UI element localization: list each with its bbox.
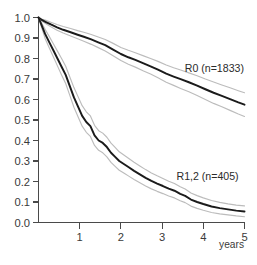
y-tick-label: 0.5 xyxy=(14,114,30,126)
confidence-lower-line xyxy=(39,18,245,217)
y-tick-label: 1.0 xyxy=(14,12,30,24)
y-tick-label: 0.3 xyxy=(14,155,30,167)
series-annotations: R0 (n=1833)R1,2 (n=405) xyxy=(177,62,244,183)
series-layer xyxy=(39,18,245,217)
x-tick-label: 1 xyxy=(77,231,83,243)
survival-curve-figure: 0.00.10.20.30.40.50.60.70.80.91.0 12345 … xyxy=(0,0,257,265)
x-axis-unit-label: years xyxy=(219,239,244,250)
y-axis-group: 0.00.10.20.30.40.50.60.70.80.91.0 xyxy=(14,12,38,229)
y-tick-label: 0.8 xyxy=(14,53,30,65)
y-tick-label: 0.1 xyxy=(14,196,30,208)
y-tick-marks xyxy=(33,18,39,223)
series-r12 xyxy=(39,18,245,217)
series-label-r0: R0 (n=1833) xyxy=(185,62,244,74)
series-label-r12: R1,2 (n=405) xyxy=(177,170,239,182)
y-tick-label: 0.9 xyxy=(14,32,30,44)
x-tick-marks xyxy=(39,215,245,229)
y-tick-label: 0.6 xyxy=(14,94,30,106)
x-tick-label: 3 xyxy=(159,231,165,243)
x-tick-label: 2 xyxy=(118,231,124,243)
plot-area: 0.00.10.20.30.40.50.60.70.80.91.0 12345 … xyxy=(0,0,257,265)
y-tick-label: 0.4 xyxy=(14,135,30,147)
confidence-upper-line xyxy=(39,18,245,93)
y-tick-labels: 0.00.10.20.30.40.50.60.70.80.91.0 xyxy=(14,12,30,229)
x-axis-group: 12345 years xyxy=(38,215,248,250)
y-tick-label: 0.7 xyxy=(14,73,30,85)
y-tick-label: 0.2 xyxy=(14,176,30,188)
x-tick-label: 4 xyxy=(200,231,206,243)
y-tick-label: 0.0 xyxy=(14,217,30,229)
